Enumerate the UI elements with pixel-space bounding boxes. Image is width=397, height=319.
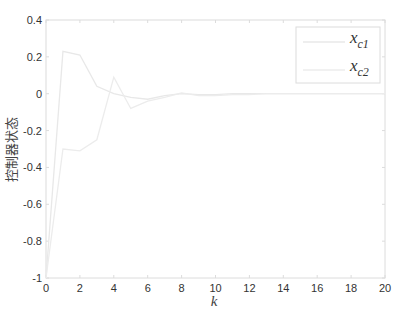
x-tick-label: 12 bbox=[243, 282, 255, 294]
x-axis-label: k bbox=[211, 293, 218, 309]
y-tick-label: -1 bbox=[32, 272, 42, 284]
y-tick-label: 0.4 bbox=[27, 14, 42, 26]
y-tick-label: -0.4 bbox=[23, 161, 42, 173]
x-tick-label: 2 bbox=[77, 282, 83, 294]
y-axis-label: 控制器状态 bbox=[4, 117, 19, 182]
y-tick-label: -0.6 bbox=[23, 198, 42, 210]
x-tick-label: 8 bbox=[179, 282, 185, 294]
legend: xc1xc2 bbox=[296, 27, 380, 83]
x-tick-label: 18 bbox=[345, 282, 357, 294]
x-tick-label: 4 bbox=[111, 282, 117, 294]
x-tick-label: 16 bbox=[311, 282, 323, 294]
x-tick-label: 6 bbox=[145, 282, 151, 294]
x-tick-label: 20 bbox=[379, 282, 391, 294]
y-tick-label: 0.2 bbox=[27, 51, 42, 63]
y-tick-label: -0.8 bbox=[23, 235, 42, 247]
y-tick-label: 0 bbox=[36, 88, 42, 100]
x-tick-label: 0 bbox=[43, 282, 49, 294]
y-tick-label: -0.2 bbox=[23, 125, 42, 137]
line-chart: 02468101214161820 -1-0.8-0.6-0.4-0.200.2… bbox=[0, 0, 397, 319]
x-tick-label: 14 bbox=[277, 282, 289, 294]
